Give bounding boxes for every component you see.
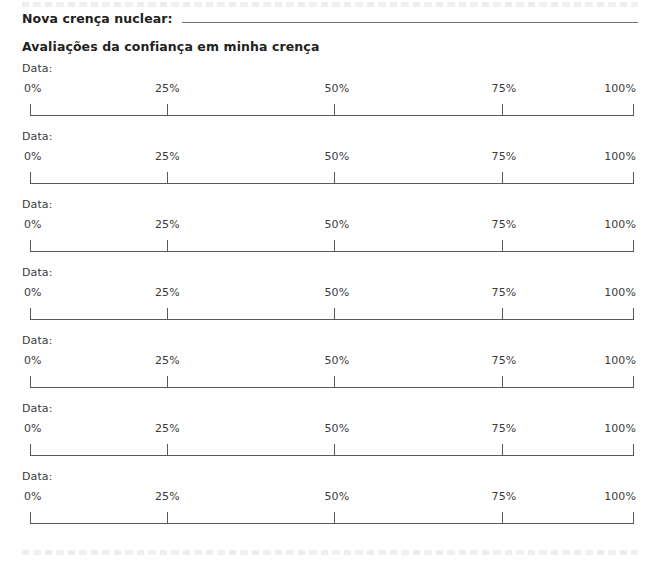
- scale-tick-50: [334, 512, 335, 524]
- scale-tick-0: [30, 444, 31, 456]
- scale-tick-labels: 0% 25% 50% 75% 100%: [24, 82, 636, 97]
- scale-tick-100: [633, 376, 634, 388]
- scale-tick-25: [167, 512, 168, 524]
- scale-tick-50: [334, 172, 335, 184]
- rating-row: Data: 0% 25% 50% 75% 100%: [0, 470, 656, 538]
- scale-axis-line: [30, 115, 634, 116]
- scale-axis[interactable]: [30, 306, 634, 320]
- scale-tick-labels: 0% 25% 50% 75% 100%: [24, 490, 636, 505]
- scale-tick-25: [167, 172, 168, 184]
- scale-axis-line: [30, 319, 634, 320]
- tick-label-0: 0%: [24, 82, 42, 95]
- date-label[interactable]: Data:: [22, 62, 52, 75]
- scale-tick-0: [30, 172, 31, 184]
- rating-row: Data: 0% 25% 50% 75% 100%: [0, 266, 656, 334]
- date-label[interactable]: Data:: [22, 130, 52, 143]
- page-top-text-bleed: [22, 2, 638, 7]
- scale-tick-75: [502, 240, 503, 252]
- date-label[interactable]: Data:: [22, 198, 52, 211]
- scale-tick-50: [334, 376, 335, 388]
- new-core-belief-field: Nova crença nuclear:: [22, 9, 638, 29]
- rating-scale[interactable]: 0% 25% 50% 75% 100%: [24, 286, 636, 332]
- rating-row: Data: 0% 25% 50% 75% 100%: [0, 402, 656, 470]
- scale-tick-100: [633, 172, 634, 184]
- tick-label-75: 75%: [492, 286, 517, 299]
- scale-tick-75: [502, 376, 503, 388]
- scale-tick-75: [502, 308, 503, 320]
- rating-scale[interactable]: 0% 25% 50% 75% 100%: [24, 354, 636, 400]
- tick-label-100: 100%: [604, 422, 636, 435]
- tick-label-75: 75%: [492, 218, 517, 231]
- tick-label-50: 50%: [324, 150, 349, 163]
- scale-axis-line: [30, 387, 634, 388]
- page-bottom-text-bleed: [22, 550, 638, 555]
- scale-axis-line: [30, 455, 634, 456]
- tick-label-75: 75%: [492, 150, 517, 163]
- scale-tick-0: [30, 240, 31, 252]
- scale-tick-100: [633, 104, 634, 116]
- new-core-belief-label: Nova crença nuclear:: [22, 11, 173, 26]
- tick-label-75: 75%: [492, 82, 517, 95]
- tick-label-100: 100%: [604, 82, 636, 95]
- date-label[interactable]: Data:: [22, 470, 52, 483]
- tick-label-50: 50%: [324, 490, 349, 503]
- scale-tick-labels: 0% 25% 50% 75% 100%: [24, 286, 636, 301]
- date-label[interactable]: Data:: [22, 266, 52, 279]
- tick-label-100: 100%: [604, 354, 636, 367]
- scale-tick-50: [334, 104, 335, 116]
- scale-axis[interactable]: [30, 442, 634, 456]
- scale-tick-75: [502, 172, 503, 184]
- date-label[interactable]: Data:: [22, 402, 52, 415]
- scale-axis[interactable]: [30, 510, 634, 524]
- scale-tick-25: [167, 376, 168, 388]
- scale-axis-line: [30, 251, 634, 252]
- rating-scale[interactable]: 0% 25% 50% 75% 100%: [24, 422, 636, 468]
- rating-scale[interactable]: 0% 25% 50% 75% 100%: [24, 150, 636, 196]
- scale-tick-100: [633, 308, 634, 320]
- scale-axis-line: [30, 183, 634, 184]
- scale-tick-75: [502, 444, 503, 456]
- scale-tick-labels: 0% 25% 50% 75% 100%: [24, 218, 636, 233]
- scale-tick-75: [502, 104, 503, 116]
- scale-tick-0: [30, 512, 31, 524]
- scale-axis[interactable]: [30, 102, 634, 116]
- tick-label-25: 25%: [155, 218, 180, 231]
- scale-tick-100: [633, 512, 634, 524]
- rating-scale[interactable]: 0% 25% 50% 75% 100%: [24, 82, 636, 128]
- confidence-ratings-heading: Avaliações da confiança em minha crença: [22, 39, 319, 54]
- rating-scale[interactable]: 0% 25% 50% 75% 100%: [24, 218, 636, 264]
- tick-label-75: 75%: [492, 422, 517, 435]
- tick-label-50: 50%: [324, 422, 349, 435]
- scale-axis[interactable]: [30, 374, 634, 388]
- scale-tick-75: [502, 512, 503, 524]
- new-core-belief-input[interactable]: [182, 9, 638, 23]
- rating-row: Data: 0% 25% 50% 75% 100%: [0, 130, 656, 198]
- tick-label-0: 0%: [24, 286, 42, 299]
- tick-label-50: 50%: [324, 82, 349, 95]
- scale-axis[interactable]: [30, 238, 634, 252]
- tick-label-25: 25%: [155, 82, 180, 95]
- tick-label-100: 100%: [604, 150, 636, 163]
- scale-tick-0: [30, 104, 31, 116]
- tick-label-75: 75%: [492, 354, 517, 367]
- tick-label-75: 75%: [492, 490, 517, 503]
- scale-tick-25: [167, 240, 168, 252]
- tick-label-0: 0%: [24, 150, 42, 163]
- scale-tick-100: [633, 444, 634, 456]
- tick-label-100: 100%: [604, 218, 636, 231]
- confidence-rating-scale-list: Data: 0% 25% 50% 75% 100% Data: 0%: [0, 62, 656, 538]
- scale-tick-0: [30, 308, 31, 320]
- rating-scale[interactable]: 0% 25% 50% 75% 100%: [24, 490, 636, 536]
- tick-label-0: 0%: [24, 490, 42, 503]
- scale-tick-50: [334, 444, 335, 456]
- tick-label-100: 100%: [604, 490, 636, 503]
- scale-tick-50: [334, 240, 335, 252]
- date-label[interactable]: Data:: [22, 334, 52, 347]
- tick-label-50: 50%: [324, 218, 349, 231]
- scale-tick-labels: 0% 25% 50% 75% 100%: [24, 354, 636, 369]
- tick-label-25: 25%: [155, 354, 180, 367]
- scale-axis-line: [30, 523, 634, 524]
- tick-label-50: 50%: [324, 354, 349, 367]
- scale-tick-25: [167, 308, 168, 320]
- scale-axis[interactable]: [30, 170, 634, 184]
